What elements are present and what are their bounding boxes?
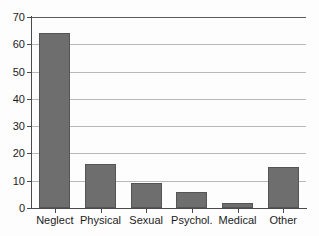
x-tick-label: Physical [80, 215, 121, 226]
y-tick-label: 60 [13, 39, 25, 50]
x-tick-label: Other [269, 215, 297, 226]
x-tick-mark [55, 208, 56, 213]
x-tick-mark [192, 208, 193, 213]
bar [131, 183, 162, 208]
y-tick-label: 0 [19, 203, 25, 214]
x-tick-mark [101, 208, 102, 213]
x-tick-label: Neglect [36, 215, 73, 226]
bar [85, 164, 116, 208]
x-tick-mark [283, 208, 284, 213]
bar [176, 192, 207, 208]
y-tick-label: 70 [13, 12, 25, 23]
y-tick-label: 50 [13, 66, 25, 77]
bar-series [32, 17, 306, 208]
x-axis-line [31, 208, 307, 209]
x-tick-label: Psychol. [171, 215, 213, 226]
y-tick-label: 20 [13, 148, 25, 159]
y-tick-label: 40 [13, 93, 25, 104]
bar [39, 33, 70, 208]
y-tick-label: 30 [13, 121, 25, 132]
y-tick-mark [27, 208, 32, 209]
x-tick-label: Sexual [129, 215, 163, 226]
x-tick-mark [146, 208, 147, 213]
bar [268, 167, 299, 208]
y-tick-label: 10 [13, 175, 25, 186]
x-tick-label: Medical [219, 215, 257, 226]
x-tick-mark [238, 208, 239, 213]
bar-chart: 010203040506070 NeglectPhysicalSexualPsy… [0, 0, 319, 236]
plot-area: 010203040506070 [32, 17, 306, 208]
